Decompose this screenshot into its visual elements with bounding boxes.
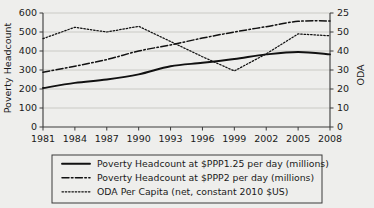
y-tick-label: 200 bbox=[19, 83, 37, 94]
y2-tick-label: 20 bbox=[337, 83, 349, 94]
poverty-oda-line-chart: 0100200300400500600 0102030405025 198119… bbox=[0, 0, 374, 208]
y-tick-label: 500 bbox=[19, 26, 37, 37]
y-tick-label: 400 bbox=[19, 45, 37, 56]
x-tick-label: 1993 bbox=[158, 133, 182, 144]
y2-tick-label: 50 bbox=[337, 26, 349, 37]
y2-tick-label: 30 bbox=[337, 64, 349, 75]
y2-tick-label: 0 bbox=[337, 121, 343, 132]
legend-label-2: Poverty Headcount at $PPP2 per day (mill… bbox=[97, 172, 314, 183]
legend-label-1: Poverty Headcount at $PPP1.25 per day (m… bbox=[97, 158, 329, 169]
y2-tick-label: 25 bbox=[337, 7, 349, 18]
y-axis-title: Poverty Headcount bbox=[2, 22, 13, 113]
x-tick-label: 1987 bbox=[95, 133, 119, 144]
x-tick-label: 1999 bbox=[222, 133, 246, 144]
x-tick-label: 2005 bbox=[286, 133, 310, 144]
y-tick-label: 600 bbox=[19, 7, 37, 18]
x-tick-label: 1984 bbox=[63, 133, 87, 144]
x-tick-label: 2002 bbox=[254, 133, 278, 144]
y-tick-label: 100 bbox=[19, 102, 37, 113]
y2-tick-label: 10 bbox=[337, 102, 349, 113]
chart-figure: 0100200300400500600 0102030405025 198119… bbox=[0, 0, 374, 208]
legend-label-3: ODA Per Capita (net, constant 2010 $US) bbox=[97, 186, 288, 197]
y2-axis-title: ODA bbox=[355, 64, 366, 86]
y2-tick-label: 40 bbox=[337, 45, 349, 56]
x-tick-label: 1996 bbox=[190, 133, 214, 144]
x-tick-label: 2008 bbox=[318, 133, 342, 144]
y-tick-label: 0 bbox=[31, 121, 37, 132]
x-tick-label: 1990 bbox=[127, 133, 151, 144]
y-tick-label: 300 bbox=[19, 64, 37, 75]
x-tick-label: 1981 bbox=[31, 133, 55, 144]
